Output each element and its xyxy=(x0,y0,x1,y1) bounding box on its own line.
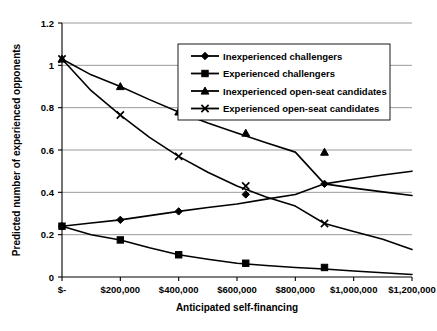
data-point-marker-diamond xyxy=(117,216,124,223)
data-point-marker-square xyxy=(59,223,65,229)
legend-label: Experienced challengers xyxy=(223,68,335,79)
x-tick-label: $1,000,000 xyxy=(330,284,378,295)
data-point-marker-square xyxy=(202,70,208,76)
legend-label: Inexperienced open-seat candidates xyxy=(223,86,387,97)
chart-container: 00.20.40.60.811.2 $-$200,000$400,000$600… xyxy=(0,0,437,331)
x-tick-label: $- xyxy=(58,284,66,295)
data-point-marker-diamond xyxy=(175,208,182,215)
x-tick-label: $1,200,000 xyxy=(388,284,436,295)
y-axis-title: Predicted number of experienced opponent… xyxy=(11,43,22,256)
data-point-marker-cross xyxy=(117,111,124,118)
legend-label: Inexperienced challengers xyxy=(223,51,342,62)
data-point-marker-square xyxy=(243,260,249,266)
data-point-marker-square xyxy=(175,252,181,258)
y-tick-label: 1.2 xyxy=(41,18,54,29)
data-point-marker-square xyxy=(117,237,123,243)
chart-legend: Inexperienced challengersExperienced cha… xyxy=(178,44,390,120)
y-tick-label: 0.4 xyxy=(41,187,55,198)
y-tick-label: 0 xyxy=(49,272,54,283)
x-axis-ticks xyxy=(62,277,412,281)
series-2 xyxy=(59,223,412,274)
legend-label: Experienced open-seat candidates xyxy=(223,103,379,114)
y-tick-label: 1 xyxy=(49,60,55,71)
predicted-opponents-line-chart: 00.20.40.60.811.2 $-$200,000$400,000$600… xyxy=(0,0,437,331)
y-tick-label: 0.6 xyxy=(41,145,54,156)
y-tick-label: 0.8 xyxy=(41,102,54,113)
y-axis-tick-labels: 00.20.40.60.811.2 xyxy=(41,18,55,283)
x-tick-label: $400,000 xyxy=(159,284,199,295)
x-tick-label: $600,000 xyxy=(217,284,257,295)
series-1 xyxy=(58,171,412,230)
data-point-marker-diamond xyxy=(242,191,249,198)
x-axis-title: Anticipated self-financing xyxy=(176,302,298,313)
data-point-marker-triangle xyxy=(242,129,250,136)
data-point-marker-square xyxy=(321,264,327,270)
x-axis xyxy=(62,277,412,281)
x-tick-label: $200,000 xyxy=(101,284,141,295)
data-point-marker-cross xyxy=(175,153,182,160)
data-point-marker-triangle xyxy=(321,148,329,155)
x-tick-label: $800,000 xyxy=(276,284,316,295)
y-tick-label: 0.2 xyxy=(41,229,54,240)
x-axis-tick-labels: $-$200,000$400,000$600,000$800,000$1,000… xyxy=(58,284,436,295)
series-line xyxy=(62,171,412,226)
